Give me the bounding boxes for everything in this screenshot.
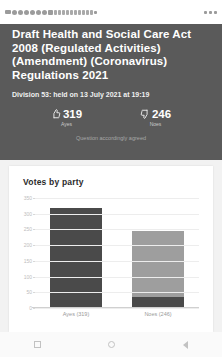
message-icon (66, 10, 69, 15)
bar-segment (132, 231, 184, 297)
back-button[interactable] (170, 337, 200, 353)
signal-bars-icon (209, 11, 212, 14)
votes-by-party-card: Votes by party 350300250200150100500 Aye… (9, 166, 213, 332)
app-notification-icon (12, 10, 17, 15)
grid-line (35, 214, 199, 215)
page-title: Draft Health and Social Care Act 2008 (R… (12, 28, 210, 82)
ayes-label: Ayes (51, 121, 82, 127)
ayes-total: 319 Ayes (51, 108, 82, 127)
y-tick-mark (33, 245, 35, 246)
app-notification-icon (48, 10, 53, 15)
message-icon (78, 10, 81, 15)
y-tick-mark (33, 214, 35, 215)
message-icon (82, 10, 85, 15)
chart-title: Votes by party (9, 166, 213, 187)
home-icon (108, 341, 115, 348)
y-tick-label: 100 (24, 274, 32, 280)
grid-line (35, 198, 199, 199)
back-icon (183, 341, 188, 349)
y-tick-label: 150 (24, 258, 32, 264)
grid-line (35, 277, 199, 278)
division-subtitle: Division 53: held on 13 July 2021 at 19:… (12, 90, 210, 99)
votes-by-party-chart: 350300250200150100500 Ayes (319)Noes (24… (9, 192, 213, 332)
message-icon (86, 10, 89, 15)
grid-line (35, 292, 199, 293)
grid-line (35, 308, 199, 309)
vote-totals: 319 Ayes 246 Noes (12, 108, 210, 127)
y-tick-label: 0 (29, 305, 32, 311)
battery-icon (214, 11, 217, 14)
message-icon (74, 10, 77, 15)
status-bar-notifications (5, 10, 97, 15)
grid-line (35, 245, 199, 246)
y-tick-label: 300 (24, 211, 32, 217)
recents-button[interactable] (22, 337, 52, 353)
status-bar (0, 0, 222, 24)
x-axis-label: Ayes (319) (50, 311, 102, 323)
chart-plot-area: 350300250200150100500 (35, 198, 199, 308)
phone-screen: Draft Health and Social Care Act 2008 (R… (0, 0, 222, 357)
thumbs-down-icon (140, 109, 150, 119)
grid-line (35, 229, 199, 230)
y-tick-mark (33, 198, 35, 199)
android-nav-bar (0, 332, 222, 357)
x-axis-labels: Ayes (319)Noes (246) (35, 311, 199, 323)
y-tick-mark (33, 229, 35, 230)
app-notification-icon (36, 10, 41, 15)
y-tick-label: 350 (24, 195, 32, 201)
app-notification-icon (42, 10, 47, 15)
question-result-caption: Question accordingly agreed (12, 135, 210, 141)
recents-icon (34, 341, 41, 348)
y-tick-mark (33, 308, 35, 309)
y-tick-mark (33, 277, 35, 278)
ayes-count: 319 (63, 108, 82, 120)
message-icon (54, 10, 57, 15)
message-icon (62, 10, 65, 15)
grid-line (35, 261, 199, 262)
app-notification-icon (24, 10, 29, 15)
noes-total: 246 Noes (140, 108, 171, 127)
signal-icon (5, 10, 11, 14)
y-tick-label: 250 (24, 226, 32, 232)
y-tick-label: 50 (26, 289, 32, 295)
app-notification-icon (30, 10, 35, 15)
message-icon (58, 10, 61, 15)
x-axis-label: Noes (246) (132, 311, 184, 323)
play-icon (94, 11, 97, 14)
wifi-icon (204, 11, 207, 14)
noes-count: 246 (152, 108, 171, 120)
y-tick-mark (33, 292, 35, 293)
division-header: Draft Health and Social Care Act 2008 (R… (0, 24, 222, 160)
y-tick-mark (33, 261, 35, 262)
noes-label: Noes (140, 121, 171, 127)
y-tick-label: 200 (24, 242, 32, 248)
status-bar-system (204, 11, 217, 14)
message-icon (70, 10, 73, 15)
home-button[interactable] (96, 337, 126, 353)
thumbs-up-icon (51, 109, 61, 119)
message-icon (90, 10, 93, 15)
app-notification-icon (18, 10, 23, 15)
